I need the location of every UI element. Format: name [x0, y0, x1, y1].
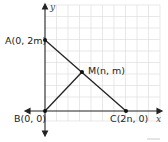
- x-axis-label: x: [156, 114, 161, 124]
- y-arrow-down-icon: [43, 131, 48, 136]
- coordinate-diagram: y x A(0, 2m) M(n, m) B(0, 0) C(2n, 0): [0, 0, 168, 142]
- point-c-label: C(2n, 0): [110, 113, 148, 124]
- point-m-label: M(n, m): [88, 65, 125, 76]
- x-arrow-icon: [157, 109, 162, 114]
- point-b-label: B(0, 0): [14, 113, 46, 124]
- grid: [45, 5, 160, 121]
- point-a-label: A(0, 2m): [5, 35, 46, 46]
- y-axis-label: y: [49, 2, 56, 12]
